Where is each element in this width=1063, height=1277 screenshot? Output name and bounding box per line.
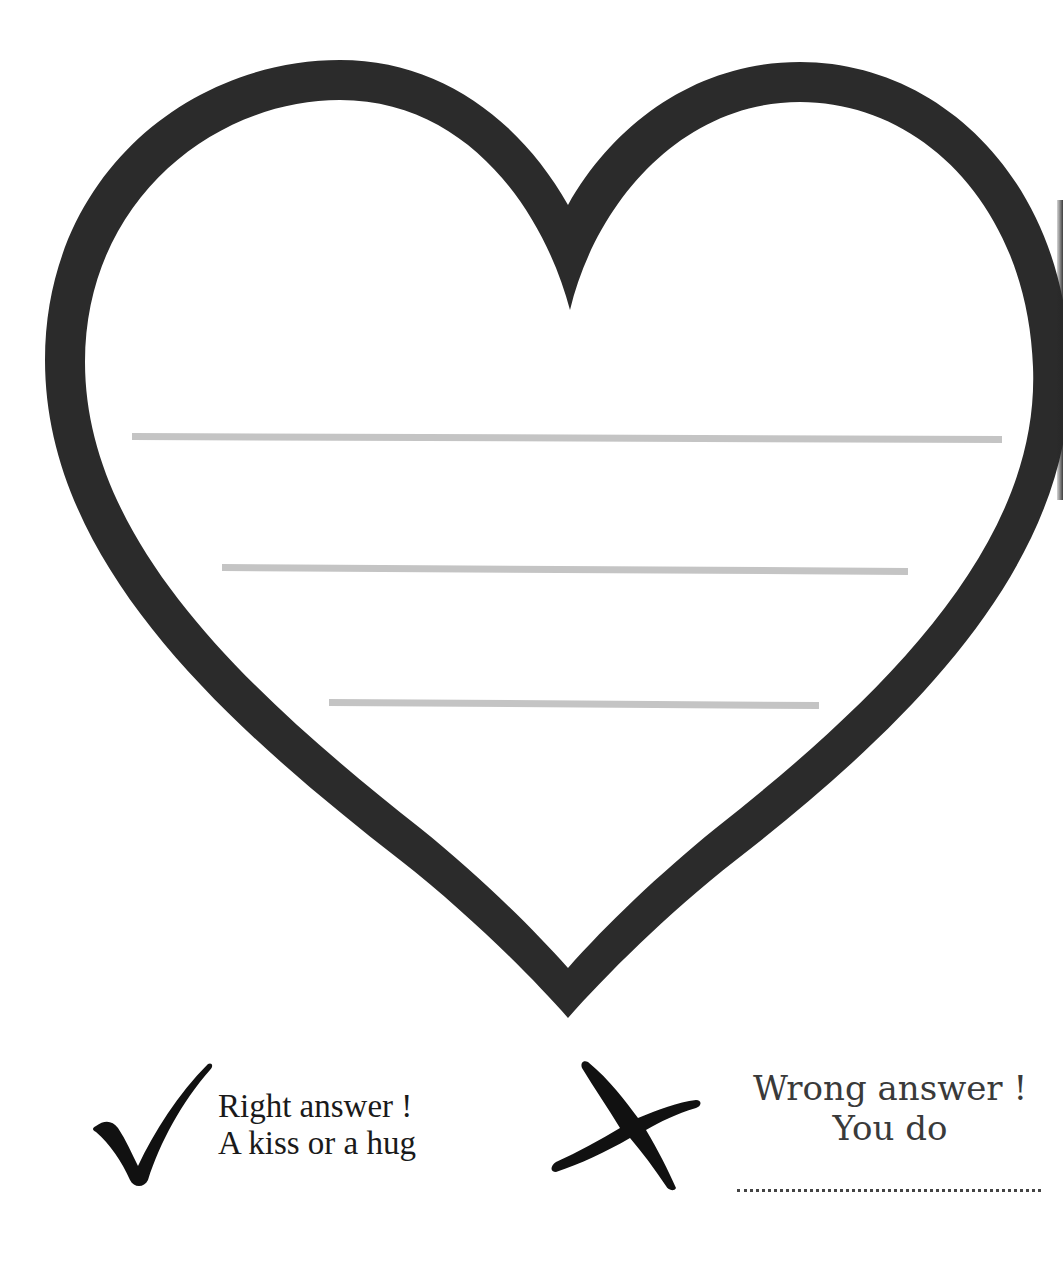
right-answer-line2: A kiss or a hug	[218, 1125, 416, 1162]
worksheet-page: Right answer ! A kiss or a hug Wrong ans…	[0, 0, 1063, 1277]
right-answer-line1: Right answer !	[218, 1088, 416, 1125]
page-edge-shadow	[1057, 200, 1063, 500]
cross-icon	[550, 1058, 702, 1192]
wrong-answer-line2: You do	[735, 1108, 1045, 1148]
right-answer-text: Right answer ! A kiss or a hug	[218, 1088, 416, 1162]
checkmark-icon	[92, 1062, 214, 1188]
fill-in-blank-line[interactable]	[737, 1189, 1041, 1192]
wrong-answer-line1: Wrong answer !	[735, 1068, 1045, 1108]
wrong-answer-text: Wrong answer ! You do	[735, 1068, 1045, 1148]
